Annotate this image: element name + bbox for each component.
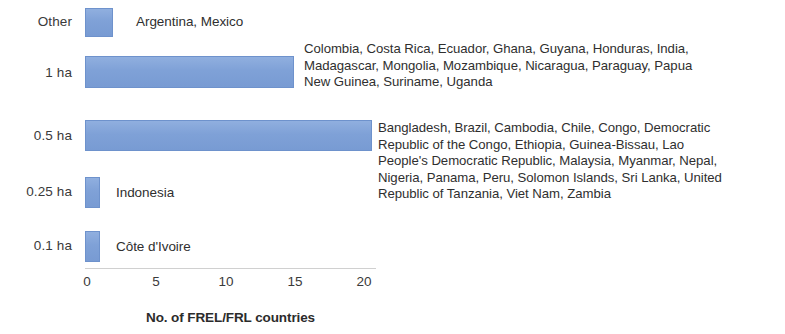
y-axis-label-other-text: Other (0, 14, 72, 29)
y-axis-label-01ha: 0.1 ha (0, 238, 72, 256)
x-tick-10: 10 (206, 274, 246, 289)
annotation-025ha: Indonesia (116, 185, 174, 201)
x-axis-line (85, 268, 376, 269)
annotation-1ha-line2: Madagascar, Mongolia, Mozambique, Nicara… (304, 58, 782, 75)
y-axis-label-other: Other (0, 14, 72, 32)
y-axis-label-01ha-text: 0.1 ha (0, 238, 72, 253)
x-tick-0: 0 (67, 274, 107, 289)
y-axis-label-025ha: 0.25 ha (0, 184, 72, 202)
y-axis-label-025ha-text: 0.25 ha (0, 184, 72, 199)
annotation-05ha-line4: Nigeria, Panama, Peru, Solomon Islands, … (378, 170, 782, 187)
annotation-01ha: Côte d'Ivoire (116, 239, 191, 255)
annotation-05ha: Bangladesh, Brazil, Cambodia, Chile, Con… (378, 120, 782, 203)
annotation-1ha: Colombia, Costa Rica, Ecuador, Ghana, Gu… (304, 41, 782, 91)
x-tick-15: 15 (275, 274, 315, 289)
x-axis-title: No. of FREL/FRL countries (85, 310, 376, 325)
annotation-other: Argentina, Mexico (136, 14, 243, 30)
annotation-05ha-line3: People's Democratic Republic, Malaysia, … (378, 153, 782, 170)
annotation-1ha-line3: New Guinea, Suriname, Uganda (304, 74, 782, 91)
bar-05ha (85, 120, 372, 151)
y-axis-label-1ha-text: 1 ha (0, 65, 72, 80)
bar-chart: Other 1 ha 0.5 ha 0.25 ha 0.1 ha Argenti… (0, 0, 785, 334)
annotation-05ha-line1: Bangladesh, Brazil, Cambodia, Chile, Con… (378, 120, 782, 137)
annotation-05ha-line2: Republic of the Congo, Ethiopia, Guinea-… (378, 137, 782, 154)
y-axis-label-05ha: 0.5 ha (0, 128, 72, 146)
annotation-1ha-line1: Colombia, Costa Rica, Ecuador, Ghana, Gu… (304, 41, 782, 58)
bar-1ha (85, 56, 294, 88)
y-axis-label-1ha: 1 ha (0, 65, 72, 83)
x-tick-5: 5 (136, 274, 176, 289)
bar-025ha (85, 177, 100, 208)
x-tick-20: 20 (344, 274, 384, 289)
bar-other (85, 8, 113, 37)
annotation-05ha-line5: Republic of Tanzania, Viet Nam, Zambia (378, 186, 782, 203)
y-axis-label-05ha-text: 0.5 ha (0, 128, 72, 143)
bar-01ha (85, 231, 100, 262)
